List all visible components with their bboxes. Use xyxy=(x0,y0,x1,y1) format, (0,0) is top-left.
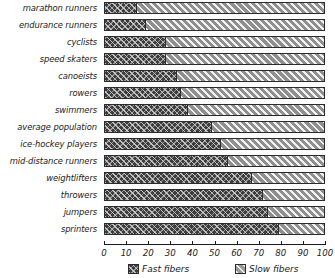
bar-segment-fast-fibers xyxy=(104,138,221,150)
x-axis-tick-label: 100 xyxy=(315,248,335,258)
bar-segment-fast-fibers xyxy=(104,19,146,31)
bar-row xyxy=(104,104,325,116)
bar-row xyxy=(104,121,325,133)
x-axis-tick-label: 30 xyxy=(160,248,180,258)
legend-swatch-fast-fibers-icon xyxy=(128,264,139,274)
legend-label: Slow fibers xyxy=(249,264,298,274)
category-label: jumpers xyxy=(64,206,97,219)
bar-segment-fast-fibers xyxy=(104,189,263,201)
category-label: ice-hockey players xyxy=(20,138,97,151)
bar-segment-slow-fibers xyxy=(165,36,325,48)
legend-swatch-slow-fibers-icon xyxy=(235,264,246,274)
x-axis-tick xyxy=(303,241,304,245)
category-label: speed skaters xyxy=(40,53,97,66)
category-label: canoeists xyxy=(58,70,97,83)
x-axis-tick-label: 0 xyxy=(94,248,114,258)
x-axis-tick-label: 90 xyxy=(293,248,313,258)
bar-segment-fast-fibers xyxy=(104,104,188,116)
bar-segment-slow-fibers xyxy=(227,155,325,167)
bar-row xyxy=(104,172,325,184)
bar-segment-fast-fibers xyxy=(104,155,228,167)
x-axis-tick xyxy=(215,241,216,245)
category-label: throwers xyxy=(61,189,97,202)
x-axis-tick xyxy=(148,241,149,245)
x-axis-tick-label: 50 xyxy=(205,248,225,258)
bar-row xyxy=(104,189,325,201)
bar-segment-fast-fibers xyxy=(104,121,212,133)
bar-segment-fast-fibers xyxy=(104,172,252,184)
legend-entry[interactable]: Fast fibers xyxy=(128,262,189,275)
bar-segment-fast-fibers xyxy=(104,70,177,82)
category-label: swimmers xyxy=(55,104,97,117)
bar-row xyxy=(104,206,325,218)
category-label: average population xyxy=(17,121,97,134)
bar-row xyxy=(104,155,325,167)
category-axis-labels: marathon runnersendurance runnerscyclist… xyxy=(0,0,100,241)
x-axis-tick xyxy=(170,241,171,245)
bar-row xyxy=(104,53,325,65)
bar-segment-fast-fibers xyxy=(104,2,137,14)
category-label: mid-distance runners xyxy=(10,155,97,168)
x-axis-tick xyxy=(325,241,326,245)
x-axis-tick xyxy=(104,241,105,245)
x-axis-tick-label: 40 xyxy=(182,248,202,258)
x-axis-tick xyxy=(259,241,260,245)
x-axis-tick-label: 10 xyxy=(116,248,136,258)
bar-row xyxy=(104,223,325,235)
plot-area xyxy=(104,0,325,241)
category-label: cyclists xyxy=(67,36,97,49)
bar-segment-slow-fibers xyxy=(262,189,325,201)
bar-row xyxy=(104,2,325,14)
chart-legend: Fast fibersSlow fibers xyxy=(0,262,331,276)
category-label: sprinters xyxy=(61,223,97,236)
bar-segment-slow-fibers xyxy=(267,206,325,218)
x-axis-tick xyxy=(281,241,282,245)
bar-segment-slow-fibers xyxy=(211,121,325,133)
bar-segment-slow-fibers xyxy=(165,53,325,65)
bar-segment-slow-fibers xyxy=(220,138,325,150)
bar-segment-slow-fibers xyxy=(251,172,325,184)
x-axis-tick xyxy=(237,241,238,245)
category-label: marathon runners xyxy=(23,2,97,15)
bar-segment-fast-fibers xyxy=(104,36,166,48)
bar-row xyxy=(104,87,325,99)
x-axis-tick-label: 70 xyxy=(249,248,269,258)
bar-segment-slow-fibers xyxy=(176,70,325,82)
bar-row xyxy=(104,36,325,48)
x-axis-tick xyxy=(126,241,127,245)
bar-segment-slow-fibers xyxy=(180,87,325,99)
x-axis-tick-label: 80 xyxy=(271,248,291,258)
bar-row xyxy=(104,19,325,31)
x-axis-tick-label: 60 xyxy=(227,248,247,258)
bar-row xyxy=(104,138,325,150)
bar-segment-fast-fibers xyxy=(104,223,279,235)
x-axis-tick-label: 20 xyxy=(138,248,158,258)
bar-segment-slow-fibers xyxy=(145,19,325,31)
legend-entry[interactable]: Slow fibers xyxy=(235,262,298,275)
bar-segment-slow-fibers xyxy=(278,223,325,235)
category-label: rowers xyxy=(69,87,97,100)
legend-label: Fast fibers xyxy=(142,264,189,274)
bar-segment-fast-fibers xyxy=(104,206,268,218)
category-label: weightlifters xyxy=(46,172,97,185)
bar-segment-slow-fibers xyxy=(187,104,325,116)
bar-segment-fast-fibers xyxy=(104,53,166,65)
bar-segment-fast-fibers xyxy=(104,87,181,99)
bar-row xyxy=(104,70,325,82)
category-label: endurance runners xyxy=(19,19,97,32)
x-axis-tick xyxy=(192,241,193,245)
bar-segment-slow-fibers xyxy=(136,2,325,14)
